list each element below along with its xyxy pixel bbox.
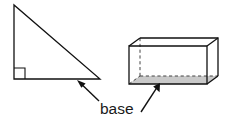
prism-base-face bbox=[129, 76, 218, 84]
base-label: base bbox=[100, 100, 134, 117]
leader-arrow-prism bbox=[141, 83, 160, 112]
prism-edge-top-right-depth bbox=[207, 38, 218, 46]
leader-arrow-triangle bbox=[77, 80, 99, 101]
prism-edge-top-left-depth bbox=[129, 38, 140, 46]
arrow-to-prism-base-shaft bbox=[141, 88, 157, 112]
right-angle-marker-icon bbox=[14, 68, 25, 79]
rectangular-prism-shape bbox=[129, 38, 218, 84]
arrow-to-triangle-base-shaft bbox=[81, 83, 100, 101]
triangle-outline bbox=[14, 5, 100, 79]
geometry-figure: base bbox=[0, 0, 229, 125]
figure-canvas: base bbox=[0, 0, 229, 125]
prism-back-face-visible bbox=[140, 38, 218, 76]
right-triangle-shape bbox=[14, 5, 100, 79]
